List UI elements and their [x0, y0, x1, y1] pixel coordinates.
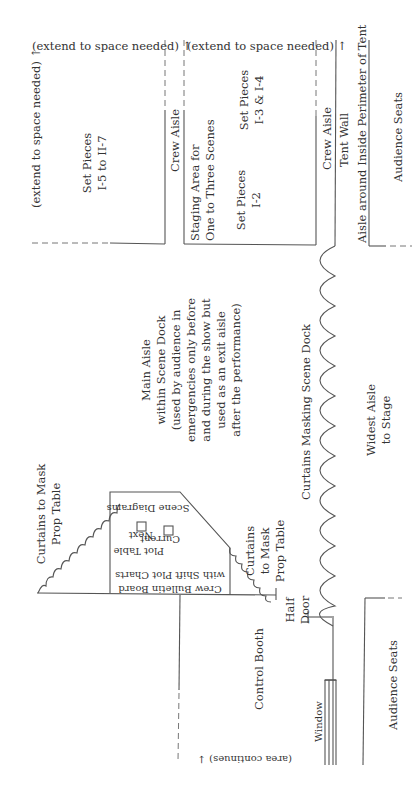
svg-text:and during the show but: and during the show but	[199, 298, 213, 442]
svg-text:Staging Area for: Staging Area for	[188, 144, 202, 241]
svg-text:Half: Half	[283, 597, 297, 623]
plot-table-label: Plot Table	[113, 546, 164, 557]
control-booth-label: Control Booth	[252, 628, 266, 710]
svg-text:within Scene Dock: within Scene Dock	[154, 315, 168, 425]
set-pieces-i2-label: Set Pieces I-2	[234, 170, 263, 230]
theatre-floor-plan: (extend to space needed) ↑ (extend to sp…	[0, 0, 418, 806]
extend-label-top-left: (extend to space needed) ↑	[32, 39, 192, 53]
scene-dock-curtain	[319, 246, 335, 626]
extend-label-top-right: (extend to space needed) ↑	[187, 39, 347, 53]
bulletin-board-label-2: with Shift Plot Charts	[115, 570, 225, 581]
svg-text:Set Pieces: Set Pieces	[234, 170, 248, 230]
main-aisle-label: Main Aisle within Scene Dock (used by au…	[139, 298, 243, 442]
svg-text:Door: Door	[298, 595, 312, 624]
scene-diagrams-label: Scene Diagrams	[107, 503, 190, 514]
window-label: Window	[313, 701, 324, 742]
area-continues-label: (area continues) ↓	[198, 754, 292, 765]
svg-text:(used by audience in: (used by audience in	[169, 309, 183, 430]
set-pieces-i5-label: Set Pieces I-5 to II-7	[80, 133, 109, 193]
bulletin-board-texts: Scene Diagrams Current Next Plot Table C…	[107, 503, 225, 595]
svg-text:used as an exit aisle: used as an exit aisle	[214, 311, 228, 429]
svg-text:I-5 to II-7: I-5 to II-7	[95, 136, 109, 191]
audience-seats-label-top: Audience Seats	[391, 92, 405, 183]
staging-area-label: Staging Area for One to Three Scenes	[188, 119, 217, 241]
next-label: Next	[129, 530, 153, 541]
control-booth-wall	[179, 595, 180, 690]
svg-text:Curtains to Mask: Curtains to Mask	[34, 463, 48, 565]
tent-wall-label: Tent Wall	[337, 112, 351, 167]
svg-text:One to Three Scenes: One to Three Scenes	[203, 119, 217, 241]
svg-text:Prop Table: Prop Table	[49, 482, 63, 545]
svg-text:Main Aisle: Main Aisle	[139, 339, 153, 401]
svg-text:I-3 & I-4: I-3 & I-4	[252, 75, 266, 124]
svg-text:Prop Table: Prop Table	[273, 519, 287, 582]
set-pieces-i3-label: Set Pieces I-3 & I-4	[237, 70, 266, 130]
svg-text:after the performance): after the performance)	[229, 303, 243, 436]
crew-aisle-label-1: Crew Aisle	[168, 109, 182, 172]
curtains-scene-dock-label: Curtains Masking Scene Dock	[299, 323, 313, 500]
svg-text:emergencies only before: emergencies only before	[184, 298, 198, 442]
svg-text:I-2: I-2	[249, 192, 263, 208]
svg-text:to Mask: to Mask	[258, 527, 272, 575]
current-checkbox[interactable]	[164, 526, 173, 535]
svg-text:to Stage: to Stage	[379, 395, 393, 444]
curtains-mask-right-label: Curtains to Mask Prop Table	[243, 519, 287, 582]
perimeter-aisle-label: Aisle around Inside Perimeter of Tent	[355, 24, 369, 244]
svg-text:Set Pieces: Set Pieces	[80, 133, 94, 193]
svg-text:Curtains: Curtains	[243, 526, 257, 576]
curtains-mask-left-label: Curtains to Mask Prop Table	[34, 463, 63, 565]
bulletin-board-label-1: Crew Bulletin Board	[118, 584, 222, 595]
svg-text:Widest Aisle: Widest Aisle	[364, 384, 378, 456]
widest-aisle-label: Widest Aisle to Stage	[364, 384, 393, 456]
window	[325, 680, 336, 765]
audience-seats-label-bottom: Audience Seats	[386, 640, 400, 731]
crew-aisle-label-2: Crew Aisle	[320, 107, 334, 170]
extend-label-side-left: (extend to space needed) ↑	[29, 48, 43, 208]
svg-text:Set Pieces: Set Pieces	[237, 70, 251, 130]
next-checkbox[interactable]	[137, 522, 146, 531]
half-door-label: Half Door	[283, 595, 312, 624]
control-booth-wall-continues	[178, 693, 179, 762]
